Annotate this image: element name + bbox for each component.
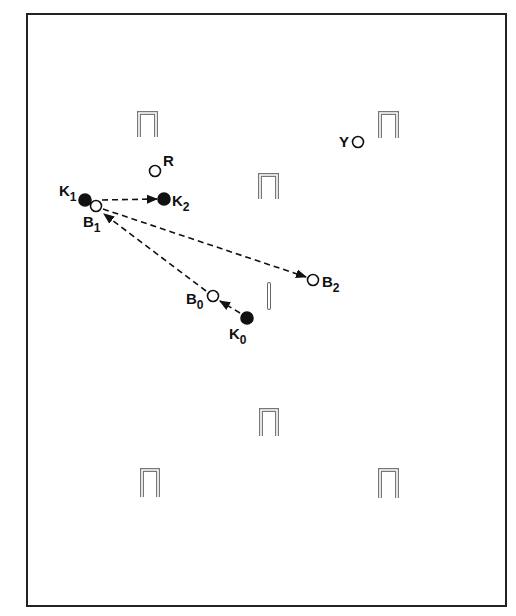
ball-label-R: R xyxy=(163,152,174,169)
wicket-bottom-right xyxy=(380,470,397,498)
ball-Y: Y xyxy=(339,133,364,150)
ball-label-K1: K1 xyxy=(59,182,77,204)
ball-R: R xyxy=(150,152,175,177)
ball-K0: K0 xyxy=(229,312,253,347)
ball-label-K2: K2 xyxy=(172,192,190,214)
ball-K1: K1 xyxy=(59,182,91,206)
ball-B2: B2 xyxy=(308,273,340,295)
arrow-K1-to-K2 xyxy=(102,199,157,200)
shot-arrows xyxy=(102,199,306,313)
ball-label-B0: B0 xyxy=(186,290,204,312)
ball-label-K0: K0 xyxy=(229,325,247,347)
arrow-B1-to-B2 xyxy=(103,209,306,277)
court-boundary xyxy=(27,14,506,606)
filled-ball-icon xyxy=(158,193,170,205)
wicket-center-lower xyxy=(261,410,277,436)
ball-K2: K2 xyxy=(158,192,190,214)
wicket-center-upper xyxy=(260,175,277,199)
filled-ball-icon xyxy=(241,312,253,324)
ball-label-Y: Y xyxy=(339,133,349,150)
wicket-top-right xyxy=(380,113,397,138)
hollow-ball-icon xyxy=(150,166,161,177)
ball-B0: B0 xyxy=(186,290,219,312)
arrow-K0-to-B0 xyxy=(220,301,240,313)
hollow-ball-icon xyxy=(91,201,102,212)
hollow-ball-icon xyxy=(308,275,319,286)
hollow-ball-icon xyxy=(353,137,364,148)
wicket-top-left xyxy=(139,113,156,137)
ball-label-B1: B1 xyxy=(83,213,101,235)
ball-label-B2: B2 xyxy=(322,273,340,295)
wicket-bottom-left xyxy=(142,470,158,497)
filled-ball-icon xyxy=(79,194,91,206)
balls: K1B1K2RYB2B0K0 xyxy=(59,133,364,347)
arrow-B0-to-B1 xyxy=(104,214,206,291)
hollow-ball-icon xyxy=(208,291,219,302)
croquet-diagram: K1B1K2RYB2B0K0 xyxy=(0,0,516,616)
